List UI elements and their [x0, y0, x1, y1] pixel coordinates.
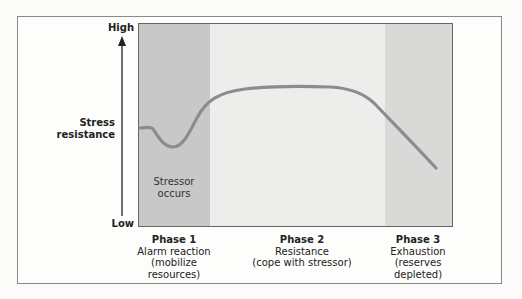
phase2-title: Phase 2	[242, 234, 362, 246]
phase3-line2: (reserves	[381, 257, 455, 269]
phase3-title: Phase 3	[381, 234, 455, 246]
phase1-title: Phase 1	[132, 234, 216, 246]
phase1-line1: Alarm reaction	[132, 246, 216, 258]
phase2-label: Phase 2 Resistance (cope with stressor)	[242, 234, 362, 269]
phase1-line2: (mobilize	[132, 257, 216, 269]
phase2-line1: Resistance	[242, 246, 362, 258]
stressor-line1: Stressor	[148, 176, 200, 188]
phase1-label: Phase 1 Alarm reaction (mobilize resourc…	[132, 234, 216, 280]
phase1-line3: resources)	[132, 269, 216, 281]
phase3-line1: Exhaustion	[381, 246, 455, 258]
phase3-line3: depleted)	[381, 269, 455, 281]
phase2-line2: (cope with stressor)	[242, 257, 362, 269]
phase3-label: Phase 3 Exhaustion (reserves depleted)	[381, 234, 455, 280]
stressor-line2: occurs	[148, 188, 200, 200]
stressor-annotation: Stressor occurs	[148, 176, 200, 200]
